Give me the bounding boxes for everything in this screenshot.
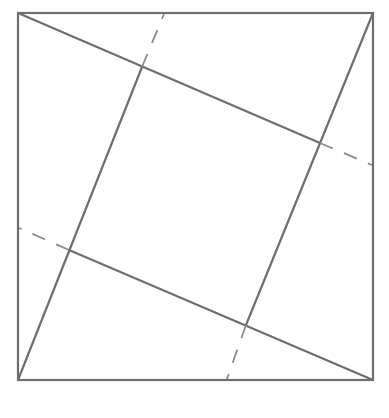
solid-lines: [18, 13, 373, 380]
geometry-diagram: [0, 0, 389, 418]
solid-line-bottom-right-to-left-inner: [69, 250, 373, 380]
outer-square: [18, 13, 373, 380]
dashed-line-right-dash: [320, 143, 372, 165]
dashed-line-left-dash: [19, 228, 69, 250]
solid-line-top-right-to-bottom-inner: [246, 13, 373, 325]
solid-line-bottom-left-to-top-inner: [18, 67, 142, 380]
solid-line-top-left-to-right-inner: [18, 13, 320, 143]
dashed-line-bottom-dash: [227, 325, 246, 379]
dashed-line-top-dash: [142, 14, 164, 67]
dashed-extension-lines: [19, 14, 372, 379]
